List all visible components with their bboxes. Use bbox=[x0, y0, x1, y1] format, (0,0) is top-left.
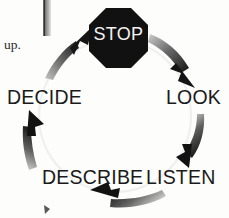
scan-speck bbox=[44, 205, 50, 214]
diagram-canvas: STOP LOOK LISTEN DESCRIBE DECIDE up. bbox=[0, 0, 229, 218]
scan-gutter-bar-edge bbox=[44, 0, 46, 36]
stop-sign-label: STOP bbox=[88, 25, 149, 43]
arrow-decide-to-stop bbox=[45, 27, 92, 80]
cycle-label-look: LOOK bbox=[166, 88, 221, 108]
cycle-label-decide: DECIDE bbox=[7, 88, 82, 108]
cycle-label-listen: LISTEN bbox=[146, 168, 215, 188]
arrow-describe-to-decide bbox=[23, 110, 44, 170]
arrow-stop-to-look bbox=[148, 34, 195, 88]
cycle-label-describe: DESCRIBE bbox=[42, 168, 143, 188]
margin-note-text: up. bbox=[4, 38, 21, 52]
